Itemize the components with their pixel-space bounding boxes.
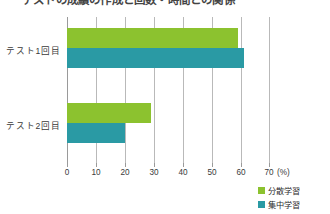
legend-label-massed: 集中学習 (268, 198, 301, 210)
tick-mark-20 (125, 163, 126, 167)
tick-mark-50 (212, 163, 213, 167)
tick-mark-70 (269, 163, 270, 167)
legend-item-distributed: 分散学習 (258, 184, 300, 196)
legend-label-distributed: 分散学習 (268, 184, 301, 196)
legend-item-massed: 集中学習 (258, 198, 300, 210)
teal-swatch-icon (258, 201, 265, 208)
tick-label-40: 40 (178, 168, 187, 177)
bar-test2-distributed (67, 103, 151, 123)
tick-label-10: 10 (91, 168, 100, 177)
tick-label-60: 60 (236, 168, 245, 177)
axis-unit-label: (%) (277, 168, 290, 177)
bar-test1-massed (67, 48, 244, 68)
category-label-test1: テスト1回目 (6, 44, 61, 56)
bar-test1-distributed (67, 28, 238, 48)
green-swatch-icon (258, 187, 265, 194)
tick-label-50: 50 (207, 168, 216, 177)
gridline-60 (241, 17, 242, 163)
gridline-70 (269, 17, 270, 163)
tick-label-0: 0 (65, 168, 70, 177)
tick-mark-30 (154, 163, 155, 167)
tick-mark-60 (241, 163, 242, 167)
tick-mark-40 (183, 163, 184, 167)
tick-label-30: 30 (149, 168, 158, 177)
tick-label-20: 20 (120, 168, 129, 177)
tick-mark-10 (96, 163, 97, 167)
plot-area (67, 17, 270, 163)
page-title: テストの成績の作成と回数・時間との関係 (22, 0, 235, 7)
category-label-test2: テスト2回目 (6, 119, 61, 131)
bar-test2-massed (67, 123, 125, 143)
chart-legend: 分散学習 集中学習 (258, 184, 300, 210)
tick-mark-0 (67, 163, 68, 167)
tick-label-70: 70 (264, 168, 273, 177)
bar-chart-figure: テストの成績の作成と回数・時間との関係 テスト1回目 テスト2回目 0 10 2… (0, 0, 330, 214)
chart-title-clipped: テストの成績の作成と回数・時間との関係 (0, 0, 330, 7)
